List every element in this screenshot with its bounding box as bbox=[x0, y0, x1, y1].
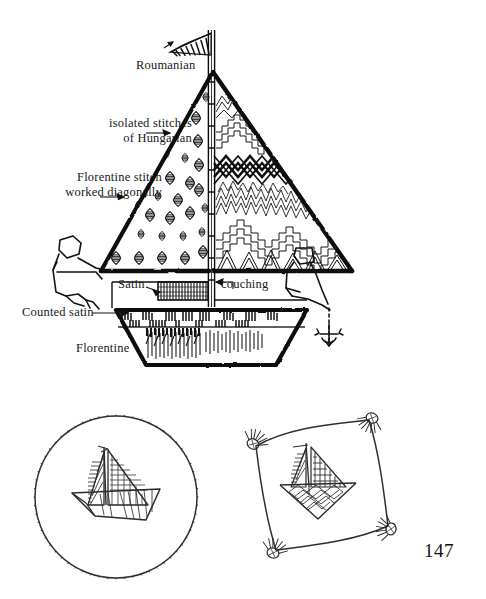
square-sample-outline bbox=[256, 420, 388, 550]
page-number: 147 bbox=[424, 540, 454, 562]
square-embroidered-sailboat-sample bbox=[0, 0, 486, 599]
book-page: Roumanian isolated stitches of Hungarian… bbox=[0, 0, 486, 599]
